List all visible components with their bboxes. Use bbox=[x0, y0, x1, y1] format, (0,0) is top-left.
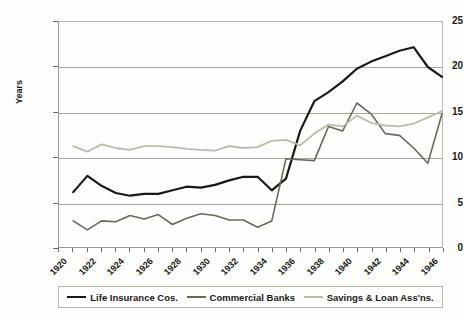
x-tick-mark bbox=[343, 248, 344, 252]
y-tick-label: 25 bbox=[417, 16, 463, 26]
y-tick-mark bbox=[53, 112, 58, 113]
x-tick-mark bbox=[186, 248, 187, 252]
x-tick-mark bbox=[201, 248, 202, 252]
x-tick-mark bbox=[144, 248, 145, 252]
legend-swatch bbox=[304, 296, 323, 298]
series-line bbox=[73, 103, 442, 230]
x-tick-mark bbox=[58, 248, 59, 252]
y-tick-label: 20 bbox=[417, 61, 463, 71]
y-tick-mark bbox=[53, 21, 58, 22]
x-tick-mark bbox=[72, 248, 73, 252]
x-tick-mark bbox=[243, 248, 244, 252]
x-tick-mark bbox=[386, 248, 387, 252]
x-tick-mark bbox=[372, 248, 373, 252]
x-tick-mark bbox=[115, 248, 116, 252]
x-tick-mark bbox=[357, 248, 358, 252]
x-tick-mark bbox=[429, 248, 430, 252]
legend-entry[interactable]: Commercial Banks bbox=[187, 292, 296, 303]
x-tick-mark bbox=[229, 248, 230, 252]
legend-label: Life Insurance Cos. bbox=[90, 292, 178, 303]
x-tick-mark bbox=[329, 248, 330, 252]
series-line bbox=[73, 111, 442, 152]
series-lines bbox=[59, 22, 442, 247]
y-tick-label: 5 bbox=[417, 198, 463, 208]
x-tick-mark bbox=[258, 248, 259, 252]
x-tick-mark bbox=[300, 248, 301, 252]
x-tick-mark bbox=[286, 248, 287, 252]
y-tick-label: 10 bbox=[417, 152, 463, 162]
y-tick-mark bbox=[53, 66, 58, 67]
y-tick-mark bbox=[53, 157, 58, 158]
legend-swatch bbox=[67, 296, 86, 298]
y-axis-title: Years bbox=[14, 80, 24, 104]
y-tick-label: 15 bbox=[417, 107, 463, 117]
x-tick-mark bbox=[400, 248, 401, 252]
x-tick-mark bbox=[215, 248, 216, 252]
x-tick-mark bbox=[87, 248, 88, 252]
x-tick-mark bbox=[272, 248, 273, 252]
legend-swatch bbox=[187, 296, 206, 298]
x-tick-mark bbox=[172, 248, 173, 252]
y-tick-label: 0 bbox=[417, 243, 463, 253]
x-tick-mark bbox=[101, 248, 102, 252]
x-tick-mark bbox=[158, 248, 159, 252]
x-tick-mark bbox=[443, 248, 444, 252]
x-tick-mark bbox=[129, 248, 130, 252]
x-tick-mark bbox=[414, 248, 415, 252]
y-tick-mark bbox=[53, 203, 58, 204]
chart-legend: Life Insurance Cos.Commercial BanksSavin… bbox=[58, 286, 443, 308]
chart-figure: Years Life Insurance Cos.Commercial Bank… bbox=[0, 0, 463, 317]
x-tick-mark bbox=[315, 248, 316, 252]
series-line bbox=[73, 47, 442, 196]
plot-area bbox=[58, 21, 443, 248]
legend-label: Commercial Banks bbox=[210, 292, 296, 303]
